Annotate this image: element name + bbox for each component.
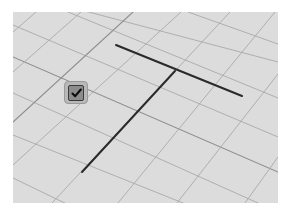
grid-line xyxy=(13,25,278,137)
grid-line xyxy=(188,12,278,44)
3d-viewport[interactable] xyxy=(13,12,278,203)
grid-line xyxy=(13,12,133,122)
grid-line xyxy=(68,12,278,98)
grid-line xyxy=(177,74,278,203)
checkmark-icon xyxy=(71,88,82,98)
grid-line xyxy=(245,157,278,203)
grid-line xyxy=(13,93,278,203)
confirm-button[interactable] xyxy=(64,81,88,104)
ground-grid xyxy=(13,12,278,203)
grid-line xyxy=(13,12,181,165)
grid-line xyxy=(13,12,36,32)
confirm-button-face xyxy=(68,85,84,101)
modeling-canvas xyxy=(0,0,293,212)
grid-lines xyxy=(13,12,278,203)
horizontal-edge[interactable] xyxy=(116,45,242,96)
grid-line xyxy=(13,12,81,72)
grid-line xyxy=(13,57,278,172)
